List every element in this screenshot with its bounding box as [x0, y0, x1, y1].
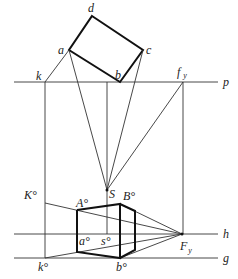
- label-b: b: [115, 68, 121, 82]
- label-p: p: [222, 75, 229, 89]
- label-Fy: Fy: [179, 239, 192, 255]
- label-A0: A°: [75, 196, 88, 210]
- label-a0: a°: [79, 234, 90, 248]
- sight-line-c-S: [107, 50, 143, 190]
- extension-line-k-a: [45, 50, 69, 82]
- label-b0: b°: [116, 260, 127, 274]
- label-S: S: [109, 187, 115, 201]
- perspective-box-right-face: [120, 204, 135, 258]
- label-g: g: [223, 251, 229, 265]
- vanishing-point-Fy: [181, 233, 184, 236]
- vanishing-line-k0-Fy: [45, 234, 182, 258]
- label-s0: s°: [101, 234, 111, 248]
- label-K0: K°: [23, 188, 37, 202]
- perspective-diagram: d a c b k fy p S K° A° B° a° s° Fy h g k…: [0, 0, 238, 279]
- label-d: d: [88, 1, 95, 15]
- label-k0: k°: [38, 260, 48, 274]
- label-fy: fy: [177, 65, 187, 80]
- plan-rectangle-abcd: [69, 16, 143, 82]
- label-c: c: [146, 43, 152, 57]
- label-a: a: [58, 43, 64, 57]
- label-B0: B°: [123, 189, 135, 203]
- vanishing-line-K0-Fy: [45, 203, 182, 234]
- vanishing-line-b0-Fy: [120, 234, 182, 258]
- label-h: h: [223, 227, 229, 241]
- sight-line-fy-S: [107, 82, 183, 190]
- label-k: k: [36, 69, 42, 83]
